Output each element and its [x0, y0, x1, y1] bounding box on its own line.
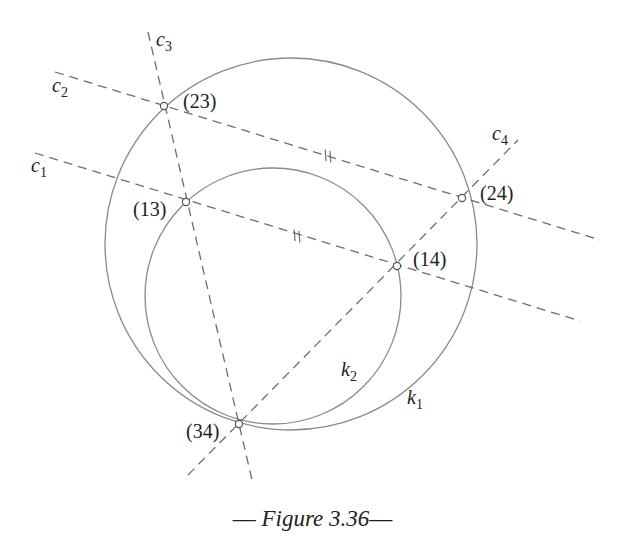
intersection-point: [235, 420, 242, 427]
point-label: (14): [413, 248, 446, 271]
equal-tick-mark: [299, 231, 300, 243]
point-label: (13): [133, 198, 166, 221]
equal-tick-mark: [294, 229, 295, 241]
labels-group: k1k2c1c2c3c4(23)(13)(24)(14)(34): [31, 28, 513, 443]
intersection-point: [393, 262, 400, 269]
caption-text: Figure 3.36: [262, 506, 370, 531]
circles-group: [105, 58, 477, 430]
equal-length-marks: [294, 149, 331, 242]
circle-label-k1: k1: [407, 386, 423, 412]
point-label: (24): [480, 182, 513, 205]
line-label-c4: c4: [492, 122, 508, 148]
intersection-point: [160, 102, 167, 109]
intersection-point: [458, 194, 465, 201]
caption-dash-right: —: [369, 506, 392, 531]
equal-tick-mark: [325, 149, 326, 161]
point-label: (23): [183, 90, 216, 113]
caption-dash-left: —: [233, 506, 256, 531]
circle-k2: [145, 168, 401, 424]
intersection-point: [182, 198, 189, 205]
figure-caption: — Figure 3.36—: [0, 506, 625, 532]
line-label-c1: c1: [31, 154, 47, 180]
circle-k1: [105, 58, 477, 430]
equal-tick-mark: [330, 151, 331, 163]
dashed-lines-group: [35, 32, 600, 480]
point-label: (34): [186, 420, 219, 443]
circle-label-k2: k2: [341, 358, 357, 384]
line-label-c3: c3: [156, 28, 172, 54]
geometry-figure: k1k2c1c2c3c4(23)(13)(24)(14)(34): [0, 0, 625, 556]
line-label-c2: c2: [52, 74, 68, 100]
